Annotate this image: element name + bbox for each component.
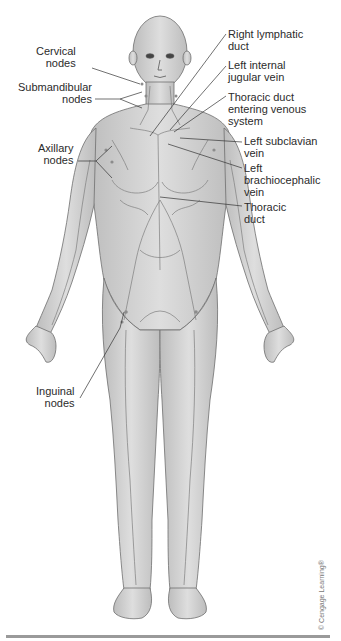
label-line: Thoracic [244,201,286,213]
label-line: Cervical [36,45,76,57]
label-left-subclavian-vein: Left subclavian vein [244,135,317,159]
copyright-notice: © Cengage Learning® [318,560,325,630]
label-line: nodes [18,93,92,105]
bottom-divider [6,635,330,638]
left-foot [168,588,206,619]
label-line: duct [244,213,286,225]
label-line: duct [228,40,303,52]
label-left-internal-jugular-vein: Left internal jugular vein [228,59,285,83]
label-line: vein [244,186,320,198]
label-line: vein [244,147,317,159]
label-line: Left [244,162,320,174]
label-line: nodes [38,154,73,166]
label-right-lymphatic-duct: Right lymphatic duct [228,28,303,52]
right-foot [114,588,152,619]
label-line: Left subclavian [244,135,317,147]
label-submandibular-nodes: Submandibular nodes [18,81,92,105]
label-line: Submandibular [18,81,92,93]
label-inguinal-nodes: Inguinal nodes [36,385,75,409]
label-thoracic-duct-entering-venous-system: Thoracic duct entering venous system [228,91,306,127]
label-thoracic-duct: Thoracic duct [244,201,286,225]
label-line: nodes [36,397,75,409]
label-line: Thoracic duct [228,91,306,103]
label-axillary-nodes: Axillary nodes [38,142,73,166]
label-line: entering venous [228,103,306,115]
label-cervical-nodes: Cervical nodes [36,45,76,69]
label-line: Right lymphatic [228,28,303,40]
label-line: nodes [36,57,76,69]
label-line: Left internal [228,59,285,71]
label-line: system [228,115,306,127]
label-line: brachiocephalic [244,174,320,186]
label-line: Inguinal [36,385,75,397]
label-left-brachiocephalic-vein: Left brachiocephalic vein [244,162,320,198]
label-line: jugular vein [228,71,285,83]
label-line: Axillary [38,142,73,154]
